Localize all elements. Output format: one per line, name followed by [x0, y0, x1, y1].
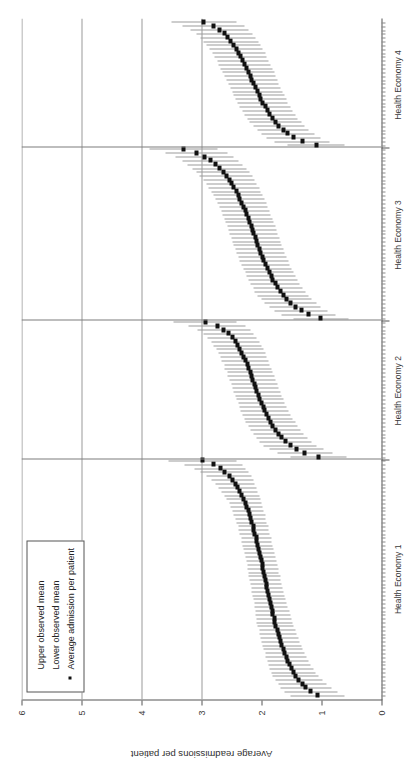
data-point-marker [227, 473, 231, 478]
x-axis-tick [381, 176, 385, 177]
x-axis-tick [381, 260, 385, 261]
x-axis-tick [381, 680, 385, 681]
x-axis-tick [381, 403, 385, 404]
data-point-marker [218, 465, 222, 470]
x-axis-tick [381, 368, 385, 369]
x-axis-tick [381, 76, 385, 77]
data-point-marker [215, 323, 219, 328]
data-point-marker [306, 311, 310, 316]
gridline [201, 18, 202, 699]
x-axis-tick [381, 91, 385, 92]
x-axis-tick [381, 80, 385, 81]
y-axis-tick [21, 700, 22, 705]
x-axis-tick [381, 241, 385, 242]
x-axis-tick [381, 149, 385, 150]
data-point-marker [318, 315, 322, 320]
x-axis-tick [381, 691, 385, 692]
x-axis-tick [381, 395, 385, 396]
x-axis-tick [381, 380, 385, 381]
x-axis-tick [381, 614, 385, 615]
x-axis-tick [381, 68, 385, 69]
x-axis-tick [381, 245, 385, 246]
x-axis-tick [381, 337, 385, 338]
x-axis-tick [381, 299, 385, 300]
x-axis-group-tick [381, 320, 389, 321]
x-axis-tick [381, 457, 385, 458]
chart-screenshot: 0123456 Average readmissions per patient… [0, 0, 405, 770]
data-point-marker [308, 688, 312, 693]
x-axis-tick [381, 210, 385, 211]
x-axis-tick [381, 195, 385, 196]
x-axis-tick [381, 414, 385, 415]
x-axis-tick [381, 387, 385, 388]
x-axis-tick [381, 607, 385, 608]
x-axis-tick [381, 437, 385, 438]
x-axis-tick [381, 626, 385, 627]
data-point-marker [300, 138, 304, 143]
x-axis-tick [381, 576, 385, 577]
gridline [141, 18, 142, 699]
legend-item: Upper observed mean [32, 548, 47, 684]
x-axis-tick [381, 364, 385, 365]
x-axis-tick [381, 657, 385, 658]
data-point-marker [221, 327, 225, 332]
x-axis-tick [381, 549, 385, 550]
x-axis-tick [381, 372, 385, 373]
x-axis-tick [381, 687, 385, 688]
x-axis-tick [381, 534, 385, 535]
x-axis-tick [381, 503, 385, 504]
x-axis-tick [381, 634, 385, 635]
x-axis-tick [381, 422, 385, 423]
x-axis-tick [381, 237, 385, 238]
x-axis-tick [381, 226, 385, 227]
x-axis-tick [381, 376, 385, 377]
x-axis-tick [381, 541, 385, 542]
x-axis-tick [381, 399, 385, 400]
x-axis-tick [381, 445, 385, 446]
data-point-marker [217, 27, 221, 32]
plot-top-border [21, 18, 22, 699]
x-axis-tick [381, 637, 385, 638]
x-axis-tick [381, 30, 385, 31]
x-axis-tick [381, 591, 385, 592]
y-axis-tick [201, 700, 202, 705]
x-axis-tick [381, 599, 385, 600]
x-axis-tick [381, 611, 385, 612]
x-axis-tick [381, 141, 385, 142]
data-point-marker [314, 142, 318, 147]
data-point-marker [281, 127, 285, 132]
x-axis-group-label: Health Economy 3 [392, 200, 402, 269]
x-axis-tick [381, 95, 385, 96]
x-axis-tick [381, 434, 385, 435]
caterpillar-plot-figure: 0123456 Average readmissions per patient… [0, 0, 405, 770]
x-axis-tick [381, 303, 385, 304]
x-axis-tick [381, 257, 385, 258]
data-point-marker [288, 442, 292, 447]
x-axis-tick [381, 230, 385, 231]
x-axis-tick [381, 561, 385, 562]
x-axis-tick [381, 661, 385, 662]
x-axis-tick [381, 603, 385, 604]
x-axis-tick [381, 122, 385, 123]
x-axis-tick [381, 287, 385, 288]
x-axis-tick [381, 41, 385, 42]
x-axis-tick [381, 203, 385, 204]
x-axis-tick [381, 545, 385, 546]
x-axis-tick [381, 580, 385, 581]
x-axis-tick [381, 114, 385, 115]
x-axis-tick [381, 33, 385, 34]
x-axis-tick [381, 233, 385, 234]
x-axis-tick [381, 472, 385, 473]
x-axis-tick [381, 526, 385, 527]
data-point-marker [294, 446, 298, 451]
data-point-marker [293, 304, 297, 309]
x-axis-tick [381, 199, 385, 200]
x-axis-tick [381, 537, 385, 538]
data-point-marker [315, 692, 319, 697]
x-axis-tick [381, 160, 385, 161]
x-axis-tick [381, 49, 385, 50]
y-axis-tick [381, 700, 382, 705]
data-point-marker [202, 154, 206, 159]
data-point-marker [213, 161, 217, 166]
y-axis-tick-label: 3 [196, 710, 206, 730]
